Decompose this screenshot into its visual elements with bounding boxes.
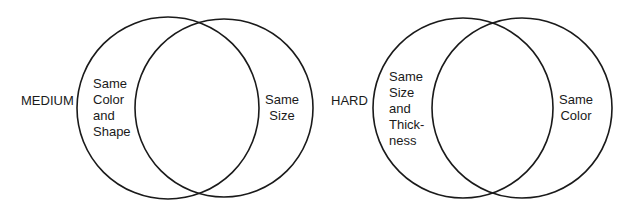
hard-level-label: HARD bbox=[331, 93, 368, 109]
medium-level-label: MEDIUM bbox=[21, 93, 74, 109]
medium-left-region-label: Same Color and Shape bbox=[93, 76, 131, 140]
medium-right-region-label: Same Size bbox=[265, 92, 299, 124]
hard-right-region-label: Same Color bbox=[559, 92, 593, 124]
hard-left-region-label: Same Size and Thick- ness bbox=[389, 69, 424, 149]
